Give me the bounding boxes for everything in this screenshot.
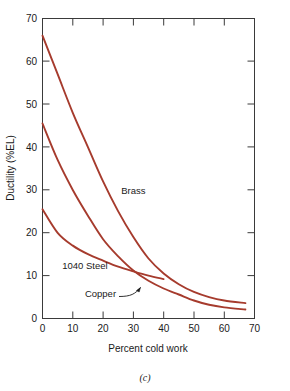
- y-tick-label: 60: [26, 56, 38, 67]
- series-label-copper: Copper: [85, 288, 116, 299]
- figure-container: 0 10 20 30 40 50 60 70 0 10 20 30 40 50 …: [0, 0, 290, 391]
- plot-frame: [43, 19, 255, 319]
- y-tick-labels: 0 10 20 30 40 50 60 70: [26, 13, 38, 324]
- y-axis-title: Ductility (%EL): [5, 135, 16, 201]
- series-curve-1040-steel: [43, 124, 246, 310]
- y-tick-label: 20: [26, 227, 38, 238]
- x-tick-label: 60: [219, 323, 231, 334]
- y-tick-label: 10: [26, 270, 38, 281]
- y-tick-label: 70: [26, 13, 38, 24]
- x-tick-label: 70: [249, 323, 261, 334]
- ductility-vs-cold-work-chart: 0 10 20 30 40 50 60 70 0 10 20 30 40 50 …: [0, 0, 290, 391]
- y-tick-label: 30: [26, 184, 38, 195]
- x-tick-labels: 0 10 20 30 40 50 60 70: [40, 323, 261, 334]
- x-tick-label: 20: [98, 323, 110, 334]
- series-label-1040-steel: 1040 Steel: [62, 260, 107, 271]
- figure-caption: (c): [139, 372, 151, 384]
- y-tick-label: 0: [31, 313, 37, 324]
- y-axis-ticks-right: [248, 61, 255, 276]
- x-tick-label: 50: [188, 323, 200, 334]
- y-tick-label: 50: [26, 99, 38, 110]
- copper-leader-arrow: [119, 288, 141, 297]
- x-axis-ticks-top: [73, 19, 225, 26]
- y-tick-label: 40: [26, 142, 38, 153]
- x-axis-title: Percent cold work: [108, 343, 188, 354]
- x-tick-label: 40: [158, 323, 170, 334]
- x-tick-label: 10: [67, 323, 79, 334]
- series-label-brass: Brass: [121, 185, 146, 196]
- x-tick-label: 0: [40, 323, 46, 334]
- y-axis-ticks: [43, 19, 50, 319]
- x-axis-ticks: [43, 312, 255, 319]
- x-tick-label: 30: [128, 323, 140, 334]
